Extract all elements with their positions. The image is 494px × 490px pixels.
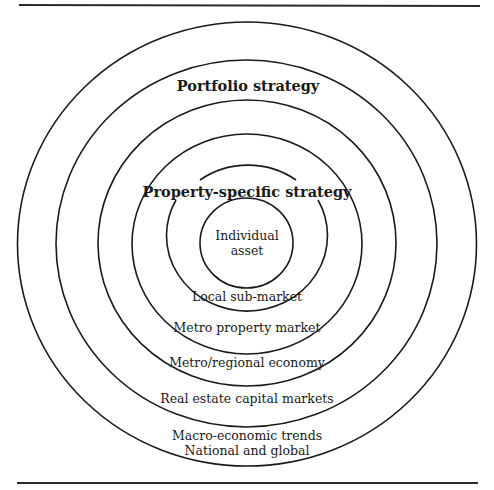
portfolio-strategy-label: Portfolio strategy xyxy=(177,77,320,94)
macro-economic-trends-label-line1: Macro-economic trends xyxy=(172,428,322,443)
metro-property-market-label: Metro property market xyxy=(174,320,321,335)
concentric-strategy-diagram: Portfolio strategy Property-specific str… xyxy=(0,0,494,490)
individual-asset-label-line1: Individual xyxy=(215,228,279,243)
local-sub-market-label: Local sub-market xyxy=(192,289,302,304)
ring-local-sub-market-top-arc xyxy=(200,165,296,180)
macro-economic-trends-label-line2: National and global xyxy=(185,443,310,458)
metro-regional-economy-label: Metro/regional economy xyxy=(169,355,326,370)
property-specific-strategy-label: Property-specific strategy xyxy=(142,183,352,200)
individual-asset-label-line2: asset xyxy=(231,243,264,258)
top-rule xyxy=(19,5,480,6)
real-estate-capital-markets-label: Real estate capital markets xyxy=(160,391,334,406)
